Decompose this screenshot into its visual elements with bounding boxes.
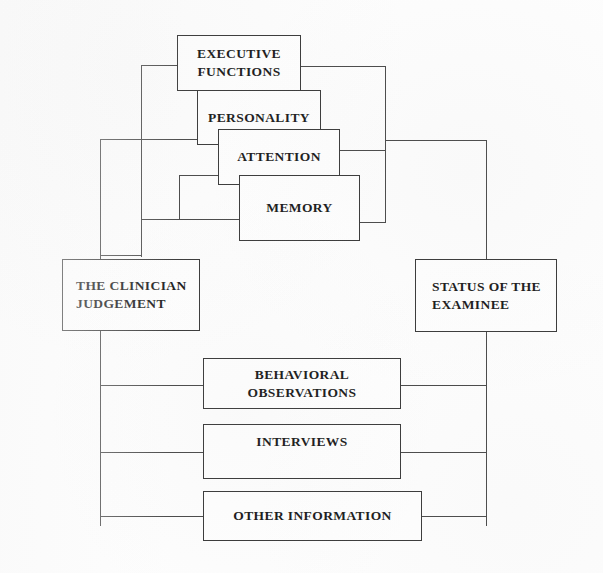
connector-attention-riser bbox=[179, 175, 180, 220]
connector-left-top-stub bbox=[100, 139, 142, 140]
node-other-information-line1: OTHER INFORMATION bbox=[233, 507, 391, 525]
node-interviews[interactable]: INTERVIEWS bbox=[203, 424, 401, 479]
connector-other-to-right bbox=[422, 516, 487, 517]
connector-behavioral-to-right bbox=[400, 385, 487, 386]
connector-exec-right-exit bbox=[300, 66, 386, 67]
diagram-canvas: EXECUTIVE FUNCTIONS PERSONALITY ATTENTIO… bbox=[0, 0, 603, 573]
connector-memory-left-entry bbox=[141, 219, 241, 220]
connector-personality-left-entry bbox=[141, 139, 198, 140]
node-attention-line1: ATTENTION bbox=[237, 148, 321, 166]
connector-left-to-other bbox=[100, 516, 204, 517]
node-status-of-examinee-line2: EXAMINEE bbox=[432, 296, 509, 314]
connector-right-trunk-lower bbox=[486, 332, 487, 526]
connector-right-trunk-upper bbox=[486, 140, 487, 260]
connector-exec-left-entry bbox=[141, 65, 178, 66]
node-executive-functions-line1: EXECUTIVE bbox=[197, 45, 281, 63]
connector-left-trunk-lower bbox=[100, 330, 101, 526]
node-executive-functions-line2: FUNCTIONS bbox=[197, 63, 280, 81]
connector-attention-right-exit bbox=[339, 150, 386, 151]
node-status-of-examinee[interactable]: STATUS OF THE EXAMINEE bbox=[415, 259, 557, 332]
node-executive-functions[interactable]: EXECUTIVE FUNCTIONS bbox=[177, 35, 301, 91]
connector-interviews-to-right bbox=[400, 452, 487, 453]
node-other-information[interactable]: OTHER INFORMATION bbox=[203, 491, 422, 541]
connector-right-upper-riser bbox=[385, 66, 386, 141]
node-interviews-line1: INTERVIEWS bbox=[256, 433, 347, 451]
node-personality-line1: PERSONALITY bbox=[208, 109, 310, 127]
connector-left-to-interviews bbox=[100, 452, 204, 453]
node-memory-line1: MEMORY bbox=[266, 199, 332, 217]
connector-right-mid-jog bbox=[385, 140, 487, 141]
connector-attention-left-entry bbox=[179, 175, 219, 176]
connector-memory-right-riser bbox=[385, 140, 386, 222]
node-behavioral-observations-line1: BEHAVIORAL bbox=[255, 366, 350, 384]
node-clinician-judgement-line2: JUDGEMENT bbox=[76, 295, 166, 313]
connector-memory-right-exit bbox=[359, 222, 386, 223]
node-behavioral-observations-line2: OBSERVATIONS bbox=[248, 384, 357, 402]
node-behavioral-observations[interactable]: BEHAVIORAL OBSERVATIONS bbox=[203, 358, 401, 409]
connector-cascade-riser bbox=[141, 65, 142, 257]
connector-left-to-behavioral bbox=[100, 385, 204, 386]
node-memory[interactable]: MEMORY bbox=[239, 175, 360, 241]
connector-left-bottom-stub bbox=[100, 255, 142, 256]
node-clinician-judgement[interactable]: THE CLINICIAN JUDGEMENT bbox=[62, 259, 200, 331]
node-status-of-examinee-line1: STATUS OF THE bbox=[432, 278, 541, 296]
connector-clinician-top-feed bbox=[100, 240, 101, 260]
node-clinician-judgement-line1: THE CLINICIAN bbox=[76, 277, 187, 295]
